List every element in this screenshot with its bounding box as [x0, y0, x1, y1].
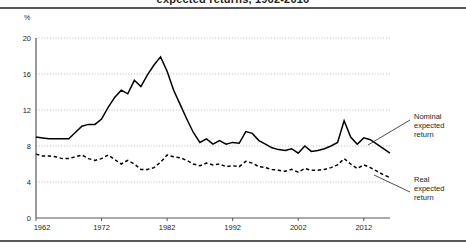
real-annotation-line1: Real: [414, 175, 464, 184]
y-axis-tick-label: 0: [27, 214, 31, 223]
x-axis-tick-label: 2012: [355, 223, 372, 232]
real-leader-line: [374, 175, 410, 192]
series-line-real: [36, 154, 390, 177]
y-axis-tick-label: 8: [27, 142, 31, 151]
y-axis-ticks-group: 048121620: [23, 34, 31, 223]
x-axis-tick-label: 1982: [159, 223, 176, 232]
nominal-annotation: Nominal expected return: [414, 112, 464, 140]
nominal-leader-line: [368, 120, 410, 145]
x-axis-tick-label: 1992: [224, 223, 241, 232]
x-axis-tick-label: 1972: [93, 223, 110, 232]
real-annotation-line3: return: [414, 193, 464, 202]
y-axis-tick-label: 12: [23, 106, 31, 115]
real-annotation: Real expected return: [414, 175, 464, 203]
nominal-annotation-line3: return: [414, 130, 464, 139]
bottom-divider: [0, 240, 466, 242]
y-axis-tick-label: 4: [27, 178, 31, 187]
gridlines-group: [36, 38, 390, 182]
x-axis-tick-label: 2002: [290, 223, 307, 232]
x-axis-ticks-group: 196219721982199220022012: [34, 218, 372, 232]
chart-plot-area: 048121620 196219721982199220022012: [0, 0, 466, 249]
real-annotation-line2: expected: [414, 184, 464, 193]
y-axis-tick-label: 16: [23, 70, 31, 79]
nominal-annotation-line2: expected: [414, 121, 464, 130]
x-axis-tick-label: 1962: [34, 223, 51, 232]
series-line-nominal: [36, 57, 390, 153]
nominal-annotation-line1: Nominal: [414, 112, 464, 121]
line-chart-svg: 048121620 196219721982199220022012: [0, 0, 466, 249]
y-axis-tick-label: 20: [23, 34, 31, 43]
